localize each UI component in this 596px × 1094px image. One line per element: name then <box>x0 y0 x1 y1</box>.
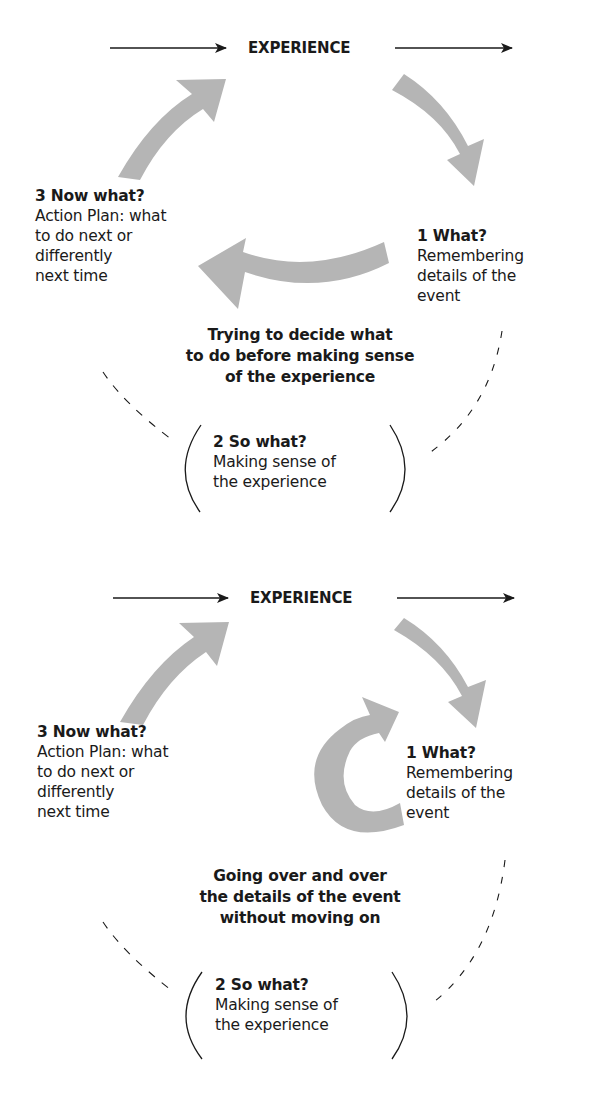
caption-line: to do before making sense <box>150 346 450 367</box>
stage-text-line: the experience <box>215 1015 338 1035</box>
diagram-panel-rumination: EXPERIENCE 3 Now what? Action Plan: what… <box>0 547 596 1094</box>
bracket-left <box>186 972 202 1059</box>
caption: Trying to decide what to do before makin… <box>150 325 450 388</box>
arrow-now-what-to-experience-icon <box>118 79 226 180</box>
stage-title: 3 Now what? <box>37 722 168 742</box>
stage-text-line: Remembering <box>406 763 513 783</box>
caption-line: without moving on <box>150 908 450 929</box>
stage-now-what: 3 Now what? Action Plan: what to do next… <box>37 722 168 822</box>
loop-back-arrow-icon <box>314 697 404 833</box>
experience-label: EXPERIENCE <box>248 38 350 58</box>
stage-now-what: 3 Now what? Action Plan: what to do next… <box>35 186 166 286</box>
stage-text-line: event <box>417 286 524 306</box>
stage-text-line: the experience <box>213 472 336 492</box>
dashed-arc-left <box>103 922 175 993</box>
bracket-right <box>392 972 407 1059</box>
stage-text-line: next time <box>35 266 166 286</box>
stage-title: 2 So what? <box>215 975 338 995</box>
stage-text-line: differently <box>37 782 168 802</box>
stage-text-line: Action Plan: what <box>37 742 168 762</box>
stage-text-line: Action Plan: what <box>35 206 166 226</box>
stage-text-line: to do next or <box>35 226 166 246</box>
diagram-panel-skip-reflection: EXPERIENCE 3 Now what? Action Plan: what… <box>0 0 596 547</box>
arrow-experience-to-what-icon <box>392 74 484 186</box>
stage-what: 1 What? Remembering details of the event <box>417 226 524 306</box>
stage-text-line: details of the <box>417 266 524 286</box>
stage-title: 2 So what? <box>213 432 336 452</box>
arrow-experience-to-what-icon <box>394 618 486 728</box>
arrow-now-what-to-experience-icon <box>120 622 229 725</box>
caption-line: Trying to decide what <box>150 325 450 346</box>
bracket-right <box>390 425 405 512</box>
stage-text-line: differently <box>35 246 166 266</box>
shortcut-arrow-left-icon <box>198 238 389 309</box>
stage-text-line: Making sense of <box>215 995 338 1015</box>
caption-line: of the experience <box>150 367 450 388</box>
stage-text-line: details of the <box>406 783 513 803</box>
stage-so-what: 2 So what? Making sense of the experienc… <box>213 432 336 492</box>
stage-what: 1 What? Remembering details of the event <box>406 743 513 823</box>
bracket-left <box>185 425 201 512</box>
stage-so-what: 2 So what? Making sense of the experienc… <box>215 975 338 1035</box>
experience-label: EXPERIENCE <box>250 588 352 608</box>
stage-title: 1 What? <box>417 226 524 246</box>
stage-text-line: event <box>406 803 513 823</box>
stage-text-line: next time <box>37 802 168 822</box>
stage-text-line: Making sense of <box>213 452 336 472</box>
caption-line: Going over and over <box>150 866 450 887</box>
caption-line: the details of the event <box>150 887 450 908</box>
stage-text-line: to do next or <box>37 762 168 782</box>
caption: Going over and over the details of the e… <box>150 866 450 929</box>
stage-title: 1 What? <box>406 743 513 763</box>
stage-title: 3 Now what? <box>35 186 166 206</box>
stage-text-line: Remembering <box>417 246 524 266</box>
